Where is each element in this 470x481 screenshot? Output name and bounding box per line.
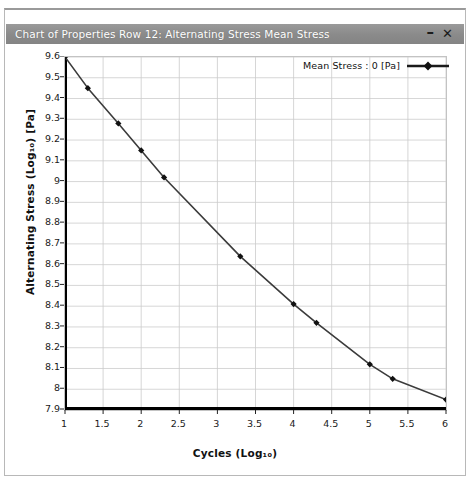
y-tick-label: 9 bbox=[26, 176, 60, 186]
chart-canvas: Alternating Stress (Log₁₀) [Pa] Cycles (… bbox=[6, 46, 464, 474]
close-button[interactable]: ✕ bbox=[438, 24, 458, 44]
x-tick-label: 3 bbox=[196, 418, 236, 429]
chart-legend[interactable]: Mean Stress : 0 [Pa] bbox=[303, 60, 450, 71]
y-tick-label: 8.5 bbox=[26, 279, 60, 289]
x-tick-label: 1 bbox=[44, 418, 84, 429]
plot-area bbox=[64, 56, 447, 411]
x-tick-label: 2 bbox=[120, 418, 160, 429]
legend-entry-label: Mean Stress : 0 [Pa] bbox=[303, 60, 400, 71]
y-tick-label: 8.7 bbox=[26, 238, 60, 248]
y-tick-label: 8.6 bbox=[26, 259, 60, 269]
y-tick-label: 9.4 bbox=[26, 93, 60, 103]
x-axis-title: Cycles (Log₁₀) bbox=[6, 447, 464, 459]
y-tick-label: 9.3 bbox=[26, 113, 60, 123]
y-tick-label: 8.8 bbox=[26, 217, 60, 227]
window-titlebar[interactable]: Chart of Properties Row 12: Alternating … bbox=[6, 24, 464, 44]
y-tick-label: 9.5 bbox=[26, 72, 60, 82]
y-tick-label: 9.6 bbox=[26, 51, 60, 61]
x-axis-tickmarks bbox=[64, 410, 447, 416]
x-tick-label: 5.5 bbox=[387, 418, 427, 429]
y-tick-label: 8.3 bbox=[26, 321, 60, 331]
x-tick-label: 6 bbox=[425, 418, 465, 429]
window-title: Chart of Properties Row 12: Alternating … bbox=[15, 24, 423, 44]
chart-window: Chart of Properties Row 12: Alternating … bbox=[0, 0, 470, 481]
y-tick-label: 8.1 bbox=[26, 362, 60, 372]
plot-svg bbox=[65, 57, 446, 410]
legend-line-marker-icon bbox=[406, 61, 450, 71]
x-tick-label: 1.5 bbox=[82, 418, 122, 429]
y-tick-label: 9.1 bbox=[26, 155, 60, 165]
x-tick-label: 5 bbox=[349, 418, 389, 429]
y-axis-ticklabels: 7.988.18.28.38.48.58.68.78.88.999.19.29.… bbox=[22, 46, 60, 436]
y-tick-label: 8.4 bbox=[26, 300, 60, 310]
minimize-button[interactable]: – bbox=[423, 22, 439, 42]
y-tick-label: 7.9 bbox=[26, 404, 60, 414]
gridlines bbox=[65, 57, 446, 410]
y-tick-label: 8.9 bbox=[26, 196, 60, 206]
x-tick-label: 2.5 bbox=[158, 418, 198, 429]
x-tick-label: 3.5 bbox=[235, 418, 275, 429]
y-tick-label: 9.2 bbox=[26, 134, 60, 144]
x-tick-label: 4 bbox=[273, 418, 313, 429]
y-tick-label: 8.2 bbox=[26, 342, 60, 352]
x-axis-ticklabels: 11.522.533.544.555.56 bbox=[64, 418, 447, 432]
y-axis-tickmarks bbox=[59, 56, 65, 411]
x-tick-label: 4.5 bbox=[311, 418, 351, 429]
y-tick-label: 8 bbox=[26, 383, 60, 393]
